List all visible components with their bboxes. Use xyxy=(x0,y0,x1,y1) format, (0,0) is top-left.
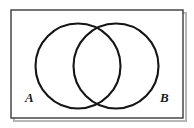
venn-diagram-figure: A B xyxy=(0,0,194,128)
set-a-label: A xyxy=(25,91,34,104)
universal-set-rectangle xyxy=(11,10,183,118)
set-b-label: B xyxy=(160,91,169,104)
venn-diagram-canvas xyxy=(0,0,194,128)
